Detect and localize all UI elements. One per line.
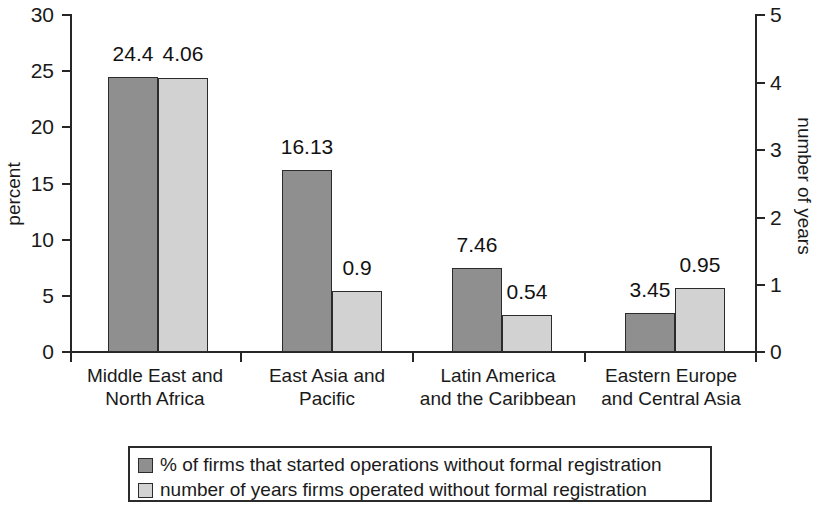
x-axis-category-1: East Asia and Pacific — [242, 364, 412, 410]
y-axis-left-tick-0 — [62, 351, 70, 353]
y-axis-right-label-1: 1 — [770, 274, 810, 295]
x-axis-category-0-line1: Middle East and — [70, 364, 240, 387]
x-axis-category-2-line2: and the Caribbean — [412, 387, 584, 410]
x-axis-category-1-line1: East Asia and — [242, 364, 412, 387]
legend-swatch-light-icon — [138, 483, 153, 498]
y-axis-left-tick-10 — [62, 239, 70, 241]
x-axis-tick-1 — [240, 353, 242, 362]
y-axis-left-tick-15 — [62, 183, 70, 185]
x-axis-category-3-line2: and Central Asia — [586, 387, 756, 410]
y-axis-left-tick-30 — [62, 14, 70, 16]
bar-g0-s0 — [108, 77, 158, 352]
chart-legend: % of firms that started operations witho… — [128, 446, 712, 502]
bar-g0-s1 — [158, 78, 208, 352]
x-axis-tick-3 — [584, 353, 586, 362]
y-axis-right-label-4: 4 — [770, 72, 810, 93]
y-axis-left-tick-20 — [62, 126, 70, 128]
y-axis-left-tick-25 — [62, 70, 70, 72]
y-axis-right-tick-4 — [757, 82, 765, 84]
bar-g2-s1 — [502, 315, 552, 352]
x-axis-category-3-line1: Eastern Europe — [586, 364, 756, 387]
y-axis-left-label-5: 5 — [0, 285, 54, 306]
bar-value-g2-s1: 0.54 — [492, 281, 562, 302]
y-axis-left-label-20: 20 — [0, 116, 54, 137]
y-axis-right-line — [755, 14, 757, 353]
bar-value-g1-s0: 16.13 — [272, 136, 342, 157]
bar-value-g3-s0: 3.45 — [615, 279, 685, 300]
y-axis-right-tick-2 — [757, 217, 765, 219]
x-axis-category-3: Eastern Europe and Central Asia — [586, 364, 756, 410]
y-axis-left-label-0: 0 — [0, 341, 54, 362]
legend-label-0: % of firms that started operations witho… — [160, 455, 662, 475]
x-axis-category-1-line2: Pacific — [242, 387, 412, 410]
bar-value-g1-s1: 0.9 — [322, 257, 392, 278]
bar-value-g0-s1: 4.06 — [148, 43, 218, 64]
bar-g1-s1 — [332, 291, 382, 352]
x-axis-tick-2 — [412, 353, 414, 362]
x-axis-category-0-line2: North Africa — [70, 387, 240, 410]
x-axis-tick-4 — [755, 353, 757, 362]
bar-value-g2-s0: 7.46 — [442, 234, 512, 255]
y-axis-right-tick-3 — [757, 149, 765, 151]
bar-value-g3-s1: 0.95 — [665, 254, 735, 275]
y-axis-left-label-25: 25 — [0, 60, 54, 81]
y-axis-right-tick-5 — [757, 14, 765, 16]
y-axis-left-label-30: 30 — [0, 4, 54, 25]
legend-item-1: number of years firms operated without f… — [138, 478, 702, 502]
x-axis-category-2: Latin America and the Caribbean — [412, 364, 584, 410]
y-axis-right-title: number of years — [793, 106, 814, 266]
bar-chart: 30 25 20 15 10 5 0 5 4 3 2 1 0 percent n… — [0, 0, 814, 509]
legend-swatch-dark-icon — [138, 458, 153, 473]
y-axis-right-tick-0 — [757, 351, 765, 353]
bar-g3-s0 — [625, 313, 675, 352]
y-axis-left-tick-5 — [62, 295, 70, 297]
legend-label-1: number of years firms operated without f… — [160, 480, 647, 500]
x-axis-tick-0 — [70, 353, 72, 362]
y-axis-right-tick-1 — [757, 284, 765, 286]
y-axis-right-label-0: 0 — [770, 341, 810, 362]
y-axis-left-title: percent — [3, 144, 25, 244]
legend-item-0: % of firms that started operations witho… — [138, 453, 702, 477]
y-axis-right-label-5: 5 — [770, 4, 810, 25]
y-axis-left-line — [70, 14, 72, 353]
x-axis-category-2-line1: Latin America — [412, 364, 584, 387]
x-axis-category-0: Middle East and North Africa — [70, 364, 240, 410]
